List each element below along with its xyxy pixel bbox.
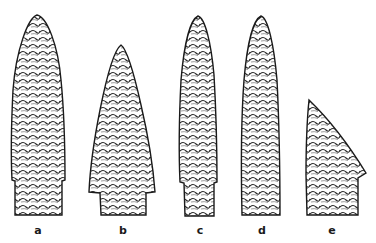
point-b <box>89 45 155 215</box>
point-e <box>306 100 366 215</box>
point-label-a: a <box>28 224 48 237</box>
point-label-c: c <box>190 224 210 237</box>
point-label-d: d <box>252 224 272 237</box>
point-d <box>241 16 280 215</box>
point-c <box>179 16 217 216</box>
projectile-points-figure <box>0 0 376 243</box>
point-label-e: e <box>322 224 342 237</box>
point-a <box>11 15 65 215</box>
point-label-b: b <box>113 224 133 237</box>
